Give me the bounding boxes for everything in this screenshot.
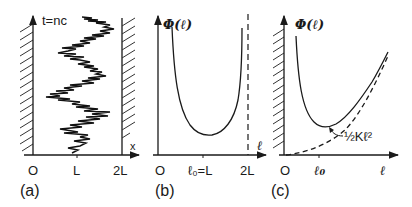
left-wall-hatching <box>273 29 284 148</box>
tick-label-0: O <box>28 163 38 178</box>
tick-label-l0: ℓ₀ <box>314 163 326 178</box>
figure-canvas: t=nc x O L 2L (a) Φ(ℓ) ℓ O ℓ₀=L 2L (b) <box>0 0 412 207</box>
panel-a: t=nc x O L 2L (a) <box>20 13 139 199</box>
potential-curve <box>172 27 242 135</box>
phi-axis-label: Φ(ℓ) <box>295 17 324 32</box>
t-axis-label: t=nc <box>42 13 67 28</box>
tick-label-L: L <box>73 163 80 178</box>
tick-label-2L: 2L <box>240 163 254 178</box>
panel-label-c: (c) <box>271 182 290 199</box>
random-walk-trajectory <box>46 17 114 153</box>
panel-label-a: (a) <box>20 182 40 199</box>
phi-axis-label: Φ(ℓ) <box>163 17 192 32</box>
l-axis-label: ℓ <box>257 138 263 153</box>
tick-label-l0: ℓ₀=L <box>188 163 212 178</box>
x-axis-label: x <box>130 140 136 152</box>
tick-label-2L: 2L <box>113 163 127 178</box>
potential-curve <box>296 36 388 127</box>
harmonic-curve-dashed <box>286 56 388 155</box>
panel-b: Φ(ℓ) ℓ O ℓ₀=L 2L (b) <box>153 14 266 199</box>
panel-c: Φ(ℓ) ½Kℓ² O ℓ₀ ℓ (c) <box>271 16 398 199</box>
left-wall-hatching <box>20 24 33 151</box>
harmonic-annotation: ½Kℓ² <box>344 129 373 144</box>
tick-label-0: O <box>155 163 165 178</box>
right-wall-hatching <box>122 18 135 138</box>
l-axis-label: ℓ <box>380 163 386 178</box>
panel-label-b: (b) <box>155 182 175 199</box>
tick-label-0: O <box>280 163 290 178</box>
